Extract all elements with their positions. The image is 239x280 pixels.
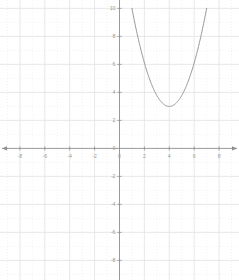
graph-canvas: -8-6-4-2024681086420-2-4-6-8 <box>0 0 239 280</box>
x-tick-label: -6 <box>43 153 48 159</box>
y-tick-label: -8 <box>111 257 116 263</box>
x-tick-label: -2 <box>92 153 97 159</box>
y-tick-label: 10 <box>110 5 116 11</box>
x-tick-label: 4 <box>168 153 171 159</box>
y-tick-label: -4 <box>111 201 116 207</box>
x-tick-label: 0 <box>118 153 121 159</box>
axes <box>2 0 237 280</box>
y-tick-label: 2 <box>113 117 116 123</box>
x-axis-arrow-left <box>2 146 7 150</box>
x-tick-label: 8 <box>218 153 221 159</box>
x-tick-label: 6 <box>193 153 196 159</box>
x-tick-label: -4 <box>67 153 72 159</box>
x-tick-label: 2 <box>143 153 146 159</box>
y-tick-label: 0 <box>113 145 116 151</box>
x-tick-label: -8 <box>18 153 23 159</box>
y-tick-label: -6 <box>111 229 116 235</box>
y-tick-label: 4 <box>113 89 116 95</box>
x-axis-arrow-right <box>232 146 237 150</box>
coordinate-graph: -8-6-4-2024681086420-2-4-6-8 <box>0 0 239 280</box>
y-tick-label: 8 <box>113 33 116 39</box>
y-tick-label: -2 <box>111 173 116 179</box>
y-tick-label: 6 <box>113 61 116 67</box>
